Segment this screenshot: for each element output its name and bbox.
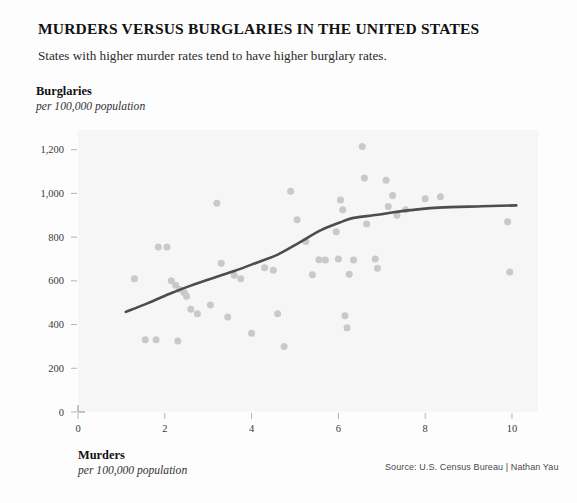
scatter-point: [274, 310, 281, 317]
scatter-point: [337, 196, 344, 203]
scatter-point: [350, 257, 357, 264]
scatter-point: [218, 260, 225, 267]
scatter-point: [270, 267, 277, 274]
x-axis-title-group: Murders per 100,000 population: [78, 448, 187, 479]
scatter-point: [248, 330, 255, 337]
scatter-point: [422, 195, 429, 202]
scatter-point: [294, 216, 301, 223]
scatter-point: [131, 275, 138, 282]
x-axis-units: per 100,000 population: [78, 464, 187, 478]
scatter-point: [383, 177, 390, 184]
x-tick-label: 6: [336, 423, 341, 434]
scatter-point: [346, 271, 353, 278]
x-tick-label: 8: [423, 423, 428, 434]
x-tick-label: 4: [249, 423, 255, 434]
scatter-point: [359, 143, 366, 150]
scatter-point: [213, 200, 220, 207]
x-tick-label: 2: [162, 423, 167, 434]
scatter-point: [163, 243, 170, 250]
scatter-point: [155, 243, 162, 250]
scatter-point: [224, 313, 231, 320]
scatter-point: [309, 271, 316, 278]
scatter-point: [504, 218, 511, 225]
scatter-point: [174, 337, 181, 344]
scatter-point: [207, 301, 214, 308]
y-axis-ticks: 02004006008001,0001,200: [40, 144, 77, 417]
scatter-point: [281, 343, 288, 350]
scatter-point: [153, 336, 160, 343]
scatter-point: [374, 265, 381, 272]
x-axis-title: Murders: [78, 448, 187, 462]
x-tick-label: 0: [75, 423, 80, 434]
scatter-point: [385, 203, 392, 210]
scatter-point: [344, 324, 351, 331]
scatter-point: [333, 228, 340, 235]
source-credit: Source: U.S. Census Bureau | Nathan Yau: [385, 462, 559, 472]
x-axis-ticks: 0246810: [75, 413, 517, 434]
y-tick-label: 400: [48, 319, 64, 330]
scatter-point: [237, 275, 244, 282]
scatter-point: [142, 336, 149, 343]
scatter-point: [335, 255, 342, 262]
scatter-point: [322, 257, 329, 264]
y-tick-label: 0: [59, 407, 64, 418]
y-tick-label: 800: [48, 232, 64, 243]
scatter-point: [194, 310, 201, 317]
scatter-point: [341, 312, 348, 319]
y-tick-label: 200: [48, 363, 64, 374]
x-tick-label: 10: [507, 423, 518, 434]
scatter-point: [187, 306, 194, 313]
scatter-point: [361, 175, 368, 182]
y-tick-label: 1,000: [40, 188, 64, 199]
scatter-plot-svg: 02004006008001,0001,200 0246810: [0, 0, 577, 503]
scatter-point: [315, 256, 322, 263]
scatter-point: [437, 193, 444, 200]
plot-background: [78, 130, 538, 412]
scatter-point: [261, 264, 268, 271]
y-tick-label: 1,200: [40, 144, 64, 155]
scatter-point: [339, 206, 346, 213]
scatter-point: [506, 269, 513, 276]
plot-area: 02004006008001,0001,200 0246810: [0, 0, 577, 503]
y-tick-label: 600: [48, 275, 64, 286]
scatter-point: [372, 255, 379, 262]
scatter-point: [287, 188, 294, 195]
scatter-point: [183, 293, 190, 300]
scatter-point: [363, 221, 370, 228]
chart-figure: MURDERS VERSUS BURGLARIES IN THE UNITED …: [0, 0, 577, 503]
scatter-point: [389, 192, 396, 199]
